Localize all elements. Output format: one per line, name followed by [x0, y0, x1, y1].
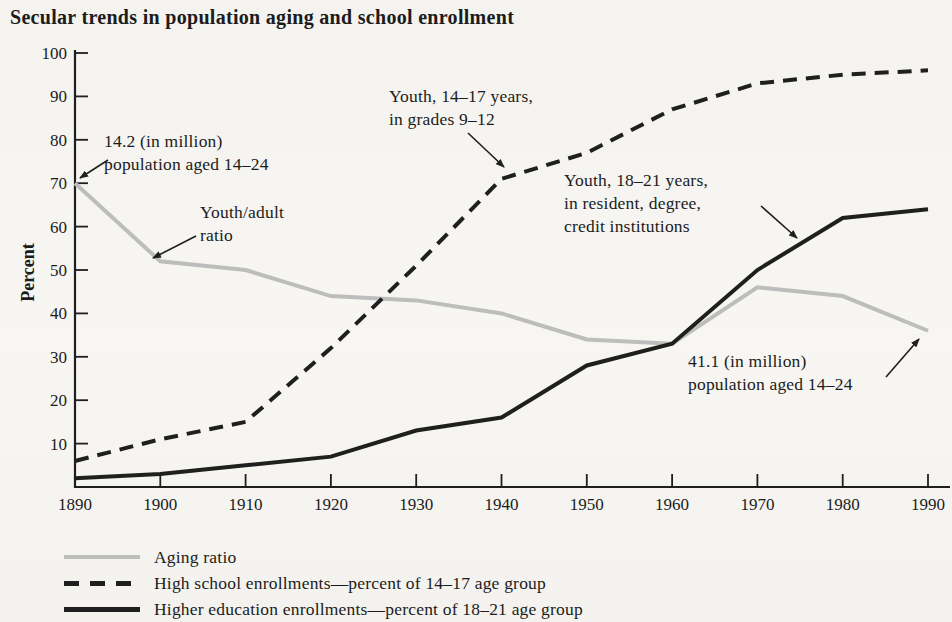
- annotation-youth-14-17: Youth, 14–17 years, in grades 9–12: [389, 85, 533, 131]
- y-tick-label: 10: [50, 435, 67, 454]
- annotation-line: population aged 14–24: [688, 373, 853, 396]
- annotation-line: in resident, degree,: [564, 192, 708, 215]
- y-axis-ticks: 102030405060708090100: [42, 44, 89, 454]
- annotation-line: ratio: [200, 224, 284, 247]
- x-tick-label: 1910: [229, 495, 263, 514]
- x-tick-label: 1980: [826, 495, 860, 514]
- legend-label: Higher education enrollments—percent of …: [154, 599, 583, 620]
- y-tick-label: 30: [50, 348, 67, 367]
- annotation-line: Youth/adult: [200, 201, 284, 224]
- x-tick-label: 1920: [314, 495, 348, 514]
- figure-title: Secular trends in population aging and s…: [10, 6, 514, 29]
- y-tick-label: 100: [42, 44, 68, 63]
- annotation-youth-adult-ratio: Youth/adult ratio: [200, 201, 284, 247]
- y-axis-title: Percent: [18, 218, 39, 328]
- legend-item-higher-education-enrollments: Higher education enrollments—percent of …: [64, 596, 583, 622]
- annotation-population-1990: 41.1 (in million) population aged 14–24: [688, 350, 853, 396]
- x-tick-label: 1930: [399, 495, 433, 514]
- arrow-population-1990: [886, 339, 919, 377]
- y-tick-label: 40: [50, 304, 67, 323]
- chart-legend: Aging ratio High school enrollments—perc…: [64, 544, 583, 622]
- annotation-line: Youth, 14–17 years,: [389, 85, 533, 108]
- annotation-line: population aged 14–24: [104, 153, 269, 176]
- y-tick-label: 80: [50, 131, 67, 150]
- legend-item-aging-ratio: Aging ratio: [64, 544, 583, 570]
- series-line-2: [75, 209, 928, 478]
- figure-page: 1020304050607080901001890190019101920193…: [0, 0, 952, 622]
- annotation-line: in grades 9–12: [389, 108, 533, 131]
- x-axis-ticks: 1890190019101920193019401950196019701980…: [58, 474, 945, 514]
- legend-swatch-dashed-line: [64, 581, 140, 586]
- arrow-youth-18-21: [761, 206, 797, 238]
- annotation-line: credit institutions: [564, 215, 708, 238]
- y-tick-label: 60: [50, 218, 67, 237]
- arrow-youth-adult-ratio: [153, 236, 196, 258]
- x-tick-label: 1890: [58, 495, 92, 514]
- x-tick-label: 1970: [740, 495, 774, 514]
- legend-label: High school enrollments—percent of 14–17…: [154, 573, 546, 594]
- x-tick-label: 1900: [143, 495, 177, 514]
- y-tick-label: 70: [50, 174, 67, 193]
- y-tick-label: 50: [50, 261, 67, 280]
- legend-item-high-school-enrollments: High school enrollments—percent of 14–17…: [64, 570, 583, 596]
- x-tick-label: 1950: [570, 495, 604, 514]
- x-tick-label: 1940: [485, 495, 519, 514]
- annotation-line: 41.1 (in million): [688, 350, 853, 373]
- legend-label: Aging ratio: [154, 547, 236, 568]
- x-tick-label: 1960: [655, 495, 689, 514]
- annotation-youth-18-21: Youth, 18–21 years, in resident, degree,…: [564, 169, 708, 238]
- annotation-population-1890: 14.2 (in million) population aged 14–24: [104, 130, 269, 176]
- arrow-youth-14-17: [468, 133, 504, 167]
- y-tick-label: 20: [50, 391, 67, 410]
- x-tick-label: 1990: [911, 495, 945, 514]
- annotation-line: 14.2 (in million): [104, 130, 269, 153]
- legend-swatch-black-solid-line: [64, 607, 140, 612]
- y-tick-label: 90: [50, 87, 67, 106]
- annotation-line: Youth, 18–21 years,: [564, 169, 708, 192]
- legend-swatch-gray-solid-line: [64, 555, 140, 559]
